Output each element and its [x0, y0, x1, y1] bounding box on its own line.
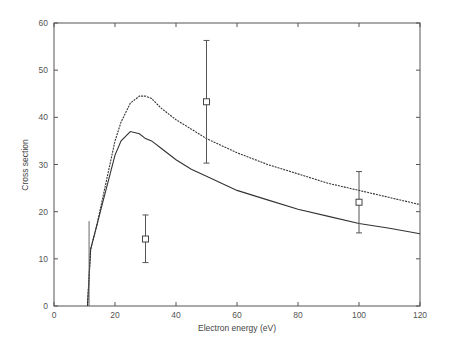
y-tick-label: 50 — [39, 65, 49, 75]
x-tick-label: 120 — [413, 310, 427, 320]
upper-dashed-curve — [88, 96, 421, 306]
x-tick-label: 40 — [171, 310, 181, 320]
x-axis-label: Electron energy (eV) — [198, 323, 276, 333]
y-tick-label: 0 — [43, 301, 48, 311]
y-tick-label: 10 — [39, 254, 49, 264]
x-tick-label: 80 — [293, 310, 303, 320]
square-marker — [356, 199, 362, 205]
x-tick-label: 100 — [352, 310, 366, 320]
data-point — [204, 40, 210, 163]
data-point — [143, 215, 149, 263]
square-marker — [143, 236, 149, 242]
x-tick-label: 20 — [110, 310, 120, 320]
cross-section-chart: 0204060801001200102030405060 Electron en… — [0, 0, 451, 349]
plot-border — [54, 23, 420, 306]
y-axis-label: Cross section — [20, 139, 30, 191]
y-tick-label: 60 — [39, 18, 49, 28]
square-marker — [204, 99, 210, 105]
curves — [88, 96, 421, 306]
x-tick-label: 60 — [232, 310, 242, 320]
plot-frame — [54, 23, 420, 306]
lower-solid-curve — [88, 132, 421, 307]
y-tick-label: 20 — [39, 207, 49, 217]
y-tick-label: 30 — [39, 160, 49, 170]
axis-ticks: 0204060801001200102030405060 — [39, 18, 428, 320]
data-points — [143, 40, 363, 262]
x-tick-label: 0 — [52, 310, 57, 320]
y-tick-label: 40 — [39, 112, 49, 122]
